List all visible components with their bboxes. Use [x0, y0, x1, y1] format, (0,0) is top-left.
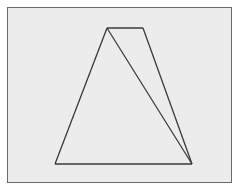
trapezoid-diagram	[0, 0, 240, 191]
diagonal	[107, 28, 192, 164]
right-edge	[143, 28, 192, 164]
left-edge	[55, 28, 107, 164]
